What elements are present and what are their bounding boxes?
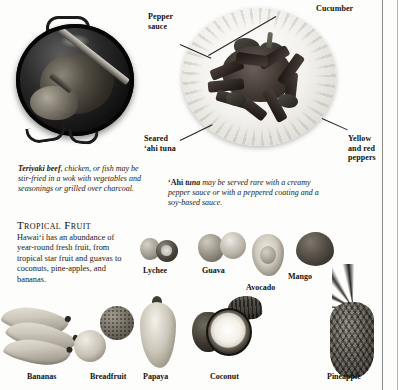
mango-fruit	[296, 232, 334, 266]
garnish-greens-3	[226, 92, 246, 106]
page-vertical-rule	[382, 0, 383, 390]
papaya-fruit	[140, 302, 176, 368]
wok-with-teriyaki-beef-photo	[8, 8, 148, 156]
caption-ahi-lead: tuna	[185, 178, 200, 187]
fruit-label-avocado: Avocado	[246, 283, 275, 292]
wok-rim	[16, 24, 134, 136]
garnish-greens-4	[278, 94, 298, 108]
fruit-label-coconut: Coconut	[210, 372, 239, 381]
fruit-label-breadfruit: Breadfruit	[90, 372, 126, 381]
caption-teriyaki: Teriyaki beef, chicken, or fish may be s…	[18, 164, 152, 195]
page-vertical-rule-outer	[397, 0, 398, 390]
callout-peppers-line1: Yellow	[348, 134, 376, 144]
avocado-fruit-halved	[252, 234, 284, 276]
callout-seared-line1: Seared	[144, 134, 176, 144]
breadfruit-textured	[100, 306, 134, 340]
callout-pepper-sauce-line2: sauce	[148, 22, 173, 32]
fruit-label-bananas: Bananas	[27, 372, 56, 381]
callout-peppers-line2: and red	[348, 144, 376, 154]
callout-cucumber: Cucumber	[316, 4, 353, 14]
caption-ahi-lead-prefix: ‘Ahi	[168, 178, 185, 187]
fruit-label-guava: Guava	[202, 266, 225, 275]
fruit-label-mango: Mango	[288, 272, 312, 281]
caption-teriyaki-lead: Teriyaki beef	[18, 164, 61, 173]
tropical-fruit-heading: Tropical Fruit	[17, 219, 91, 231]
caption-ahi-tuna: ‘Ahi tuna may be served rare with a crea…	[168, 178, 334, 209]
guava-fruit-smooth	[220, 232, 246, 259]
coconut-halved	[206, 308, 252, 356]
pineapple-fruit	[330, 302, 374, 378]
callout-yellow-red-peppers: Yellow and red peppers	[348, 134, 376, 163]
callout-pepper-sauce: Pepper sauce	[148, 12, 173, 31]
page-canvas: Pepper sauce Cucumber Seared ‘ahi tuna Y…	[0, 0, 399, 390]
wok-handle-bottom-right-icon	[67, 128, 98, 145]
fruit-label-lychee: Lychee	[143, 266, 167, 275]
breadfruit-pale	[74, 330, 106, 362]
tropical-fruit-body: Hawai‘i has an abundance of year-round f…	[17, 233, 125, 285]
wok-handle-bottom-left-icon	[25, 123, 67, 144]
callout-seared-ahi-tuna: Seared ‘ahi tuna	[144, 134, 176, 153]
fruit-label-papaya: Papaya	[143, 372, 168, 381]
fruit-label-pineapple: Pineapple	[327, 372, 361, 381]
callout-peppers-line3: peppers	[348, 153, 376, 163]
callout-pepper-sauce-line1: Pepper	[148, 12, 173, 22]
lychee-fruit-opened	[156, 240, 178, 262]
callout-seared-line2: ‘ahi tuna	[144, 144, 176, 154]
